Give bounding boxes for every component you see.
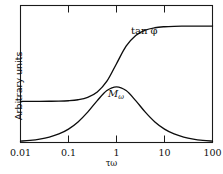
x-axis-title: τω xyxy=(0,158,223,168)
x-axis-ticks-top xyxy=(69,6,165,13)
x-tick-label-3: 10 xyxy=(148,147,181,158)
x-axis-ticks-bottom xyxy=(69,136,165,143)
annotation-m-omega: Mω xyxy=(108,88,124,101)
x-tick-label-4: 100 xyxy=(196,147,223,158)
x-tick-label-0: 0.01 xyxy=(4,147,37,158)
x-tick-label-1: 0.1 xyxy=(52,147,85,158)
y-axis-title: Arbitrary units xyxy=(13,52,24,120)
annotation-tan-phi: tan φ xyxy=(131,25,158,36)
chart-figure: 0.01 0.1 1 10 100 τω Arbitrary units tan… xyxy=(0,0,223,174)
annotation-m-omega-base: M xyxy=(108,88,118,99)
x-tick-label-2: 1 xyxy=(100,147,133,158)
annotation-m-omega-subscript: ω xyxy=(118,93,124,101)
